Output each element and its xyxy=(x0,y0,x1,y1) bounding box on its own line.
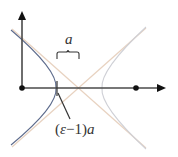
focus-dot xyxy=(133,85,139,91)
x-axis-arrow-icon xyxy=(157,84,166,92)
axes xyxy=(18,11,166,92)
label-eccentricity: (ε−1)a xyxy=(55,121,94,138)
y-axis-arrow-icon xyxy=(18,11,26,20)
hyperbola-diagram: a (ε−1)a xyxy=(0,0,178,157)
brace-a-icon xyxy=(57,50,79,59)
label-a: a xyxy=(65,31,73,47)
origin-dot xyxy=(19,85,25,91)
